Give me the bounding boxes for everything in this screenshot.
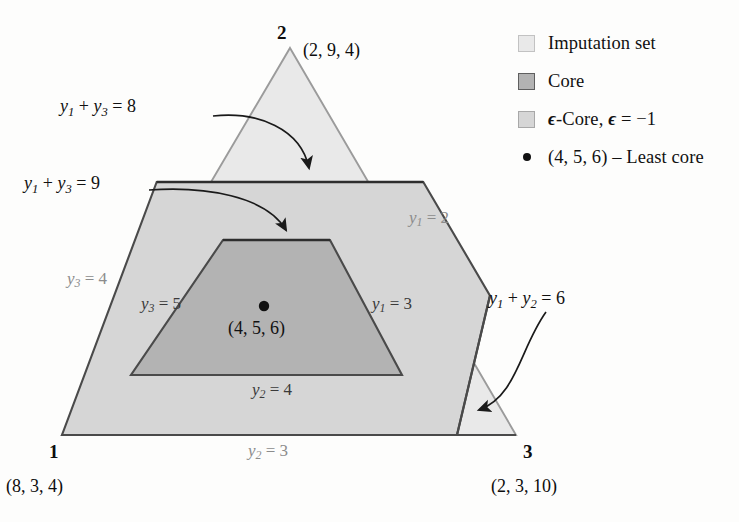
e0-sub: 1 [417, 215, 423, 229]
edge-label-y3-eq-4: y3 = 4 [67, 270, 107, 290]
ann6-sub-a: 1 [497, 297, 503, 311]
ann9-var-a: y [24, 173, 32, 193]
e0-var: y [409, 208, 417, 227]
imputation-set-swatch-icon [518, 35, 535, 52]
epsilon-symbol-1: ϵ [548, 109, 556, 129]
edge-label-y2-eq-4: y2 = 4 [252, 381, 292, 401]
e1-sub: 1 [380, 301, 386, 315]
epsilon-symbol-2: ϵ [608, 109, 616, 129]
vertex-label-3-coord: (2, 3, 10) [491, 477, 557, 495]
ann6-plus: + [508, 288, 518, 308]
least-core-point-label: (4, 5, 6) [228, 319, 285, 337]
ann8-sub-b: 3 [101, 105, 107, 119]
e2-var: y [67, 269, 75, 288]
legend-item-epsilon-core[interactable]: ϵ-Core, ϵ = −1 [518, 100, 733, 138]
legend-label-core: Core [548, 71, 584, 92]
ann9-plus: + [43, 173, 53, 193]
legend: Imputation set Core ϵ-Core, ϵ = −1 (4, 5… [518, 24, 733, 176]
e0-eq: = 2 [427, 208, 449, 227]
legend-label-epsilon-core: ϵ-Core, ϵ = −1 [548, 109, 656, 130]
edge-label-y1-eq-2: y1 = 2 [409, 209, 449, 229]
e2-eq: = 4 [85, 269, 107, 288]
least-core-point-marker [259, 301, 269, 311]
core-swatch-icon [518, 73, 535, 90]
least-core-dot-icon [518, 153, 535, 161]
e5-eq: = 4 [270, 380, 292, 399]
legend-label-imputation-set: Imputation set [548, 33, 656, 54]
e1-var: y [372, 294, 380, 313]
legend-item-core[interactable]: Core [518, 62, 733, 100]
vertex-label-1-number: 1 [49, 442, 59, 461]
e3-sub: 3 [149, 301, 155, 315]
ann9-sub-b: 3 [65, 182, 71, 196]
e5-sub: 2 [260, 387, 266, 401]
vertex-label-3-number: 3 [523, 442, 533, 461]
ann8-eq: = 8 [112, 96, 136, 116]
legend-item-imputation-set[interactable]: Imputation set [518, 24, 733, 62]
vertex-label-2-coord: (2, 9, 4) [303, 41, 360, 59]
ann8-plus: + [79, 96, 89, 116]
e5-var: y [252, 380, 260, 399]
edge-label-y3-eq-5: y3 = 5 [141, 295, 181, 315]
legend-item-least-core[interactable]: (4, 5, 6) – Least core [518, 138, 733, 176]
annotation-y1-plus-y3-eq-8: y1 + y3 = 8 [60, 97, 136, 118]
e3-var: y [141, 294, 149, 313]
e4-eq: = 3 [266, 441, 288, 460]
ann9-sub-a: 1 [32, 182, 38, 196]
epsilon-core-text-a: -Core, [556, 109, 608, 129]
e1-eq: = 3 [390, 294, 412, 313]
vertex-label-2-number: 2 [277, 23, 287, 42]
edge-label-y2-eq-3: y2 = 3 [248, 442, 288, 462]
figure-canvas: 2 (2, 9, 4) 1 (8, 3, 4) 3 (2, 3, 10) y1 … [0, 0, 739, 522]
e2-sub: 3 [75, 276, 81, 290]
ann6-var-a: y [489, 288, 497, 308]
vertex-label-1-coord: (8, 3, 4) [6, 477, 63, 495]
edge-label-y1-eq-3: y1 = 3 [372, 295, 412, 315]
epsilon-core-swatch-icon [518, 111, 535, 128]
epsilon-core-text-b: = −1 [616, 109, 656, 129]
e4-sub: 2 [256, 448, 262, 462]
e4-var: y [248, 441, 256, 460]
ann8-sub-a: 1 [68, 105, 74, 119]
annotation-y1-plus-y3-eq-9: y1 + y3 = 9 [24, 174, 100, 195]
e3-eq: = 5 [159, 294, 181, 313]
ann6-sub-b: 2 [530, 297, 536, 311]
annotation-y1-plus-y2-eq-6: y1 + y2 = 6 [489, 289, 565, 310]
ann9-eq: = 9 [76, 173, 100, 193]
ann8-var-a: y [60, 96, 68, 116]
ann6-eq: = 6 [541, 288, 565, 308]
legend-label-least-core: (4, 5, 6) – Least core [548, 147, 704, 168]
